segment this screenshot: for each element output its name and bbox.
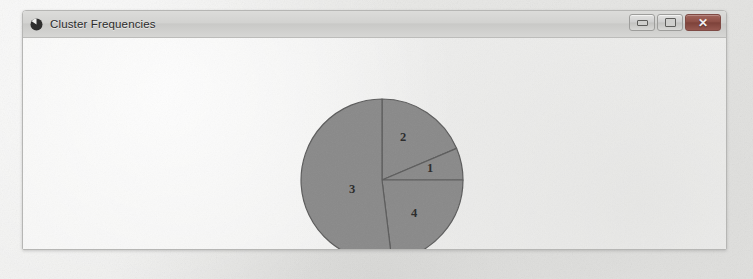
application-window[interactable]: Cluster Frequencies ✕ 2143 <box>22 10 727 250</box>
pie-slice-4[interactable] <box>382 180 463 249</box>
window-controls: ✕ <box>629 14 721 31</box>
maximize-icon <box>665 18 676 27</box>
pie-slice-label-2: 2 <box>400 130 406 144</box>
window-titlebar[interactable]: Cluster Frequencies ✕ <box>23 11 726 38</box>
close-button[interactable]: ✕ <box>685 14 721 31</box>
maximize-button[interactable] <box>657 14 683 31</box>
window-client-area: 2143 <box>23 38 726 249</box>
pie-slices <box>301 99 463 249</box>
pie-chart[interactable]: 2143 <box>23 38 726 249</box>
pie-slice-label-3: 3 <box>349 182 355 196</box>
pie-slice-3[interactable] <box>301 99 392 249</box>
minimize-button[interactable] <box>629 14 655 31</box>
pie-slice-label-4: 4 <box>411 206 418 220</box>
window-title: Cluster Frequencies <box>50 18 156 30</box>
pie-chart-icon <box>30 18 43 31</box>
close-icon: ✕ <box>698 17 708 29</box>
minimize-icon <box>637 20 648 26</box>
pie-slice-label-1: 1 <box>427 161 433 175</box>
